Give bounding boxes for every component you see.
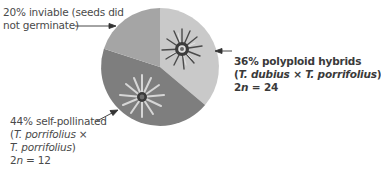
chromo-value: = 24 (248, 81, 278, 93)
label-self-chromosomes: 2n = 12 (10, 154, 107, 167)
label-polyploid-cross: (T. dubius × T. porrifolius) (234, 68, 381, 81)
label-inviable-line2: not germinate) (3, 19, 124, 32)
species-porrifolius-1: T. porrifolius × (14, 128, 88, 140)
label-polyploid: 36% polyploid hybrids (T. dubius × T. po… (234, 55, 381, 94)
arrow-polyploid (215, 49, 232, 54)
label-inviable: 20% inviable (seeds did not germinate) (3, 6, 124, 32)
cross-symbol: × (290, 68, 306, 80)
label-self-line2: (T. porrifolius × (10, 128, 107, 141)
label-polyploid-line1: 36% polyploid hybrids (234, 55, 381, 68)
label-inviable-line1: 20% inviable (seeds did (3, 6, 124, 19)
chromo-value: = 12 (23, 154, 51, 166)
label-self-pollinated: 44% self-pollinated (T. porrifolius × T.… (10, 115, 107, 167)
label-polyploid-chromosomes: 2n = 24 (234, 81, 381, 94)
species-dubius: T. dubius (239, 68, 290, 80)
species-porrifolius-2: T. porrifolius (10, 141, 72, 153)
label-self-line1: 44% self-pollinated (10, 115, 107, 128)
species-porrifolius: T. porrifolius (305, 68, 377, 80)
label-self-line3: T. porrifolius) (10, 141, 107, 154)
